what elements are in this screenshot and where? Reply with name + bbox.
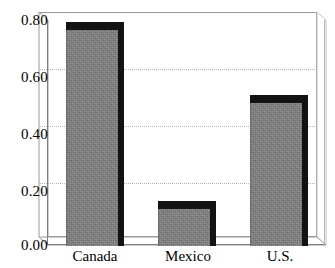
bar-canada-top-face xyxy=(66,22,124,30)
bar-us-top-face xyxy=(250,95,308,103)
x-axis-label-canada: Canada xyxy=(57,248,133,265)
y-axis-tick-label-060: 0.60 xyxy=(0,70,48,85)
y-axis-tick-label-040: 0.40 xyxy=(0,127,48,142)
y-axis-tick-label-080: 0.80 xyxy=(0,13,48,28)
bar-canada-front-face xyxy=(66,30,118,246)
y-axis-tick-label-000: 0.00 xyxy=(0,238,48,253)
x-axis-label-mexico: Mexico xyxy=(150,248,226,265)
bar-canada xyxy=(66,22,124,246)
bar-chart: 0.80 0.60 0.40 0.20 0.00 Canada Mexico U… xyxy=(0,0,335,268)
x-axis-label-us: U.S. xyxy=(242,248,318,265)
bar-mexico-side-face xyxy=(209,201,216,246)
bar-mexico-front-face xyxy=(158,209,210,246)
y-axis-tick-label-020: 0.20 xyxy=(0,184,48,199)
bar-mexico xyxy=(158,201,216,246)
bar-canada-side-face xyxy=(117,22,124,246)
bar-us-front-face xyxy=(250,103,302,246)
bar-us-side-face xyxy=(301,95,308,246)
bar-us xyxy=(250,95,308,246)
bar-mexico-top-face xyxy=(158,201,216,209)
